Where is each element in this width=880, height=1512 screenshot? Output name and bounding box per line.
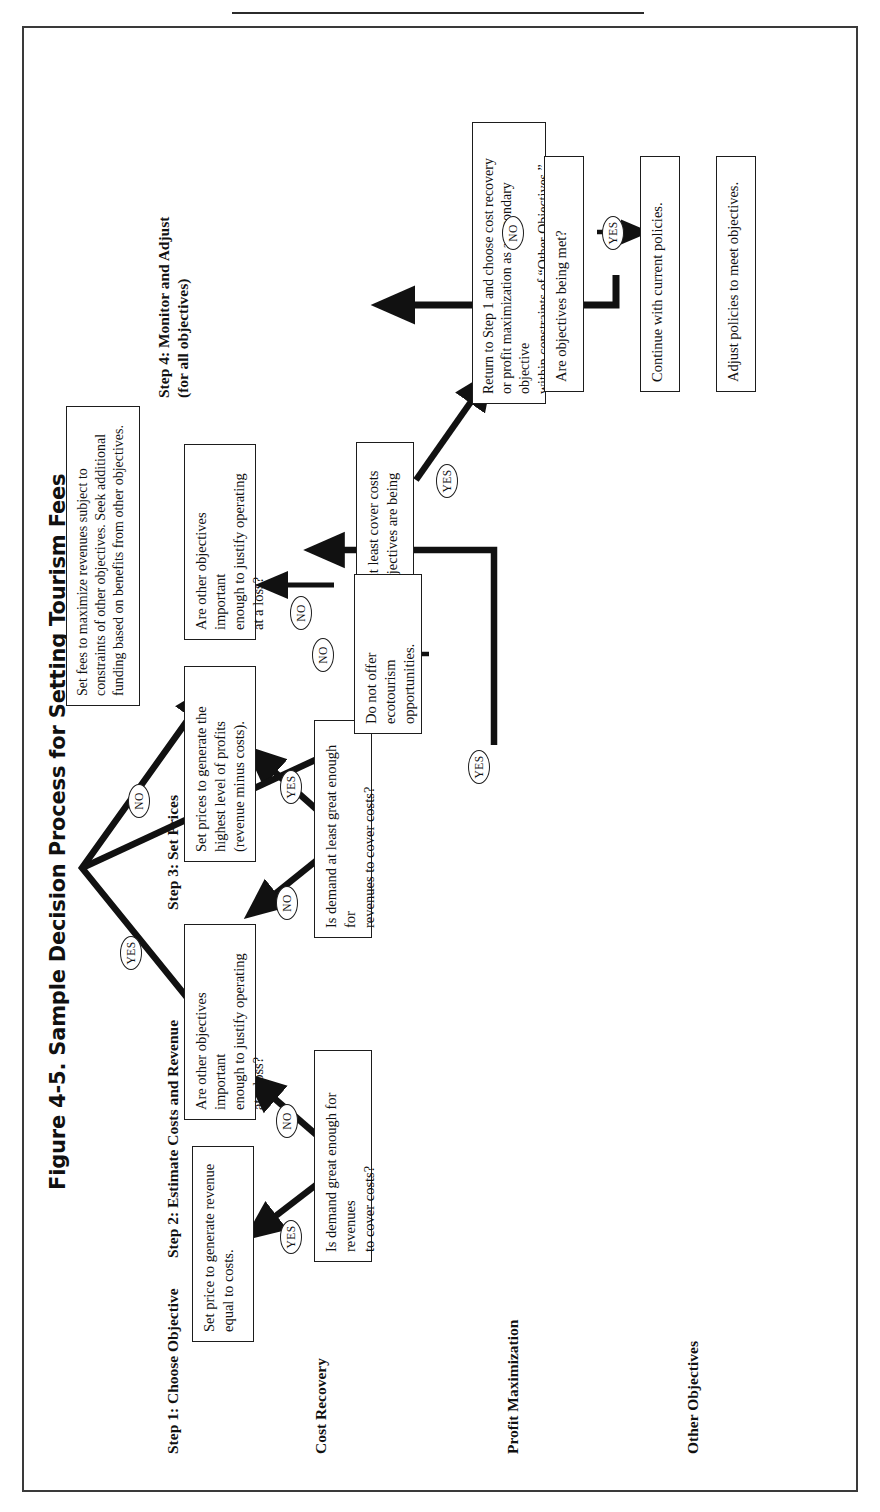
tag-step4-yes: YES [602, 216, 624, 250]
box-continue-current-policies: Continue with current policies. [640, 156, 680, 392]
column-heading-step1: Step 1: Choose Objective [164, 1288, 183, 1454]
box-cost-recovery-demand: Is demand great enough for revenues to c… [314, 1050, 372, 1262]
box-return-to-step1: Return to Step 1 and choose cost recover… [472, 122, 546, 404]
top-rule-divider [232, 12, 644, 14]
column-heading-step4: Step 4: Monitor and Adjust (for all obje… [154, 217, 193, 398]
tag-cost-recovery-no: NO [276, 1104, 298, 1138]
tag-profit-max-objectives-yes: YES [468, 750, 490, 784]
tag-profit-max-yes: YES [280, 770, 302, 804]
box-are-objectives-being-met: Are objectives being met? [544, 156, 584, 392]
column-heading-step3: Step 3: Set Prices [164, 795, 183, 910]
box-adjust-policies: Adjust policies to meet objectives. [716, 156, 756, 392]
figure-page: Figure 4-5. Sample Decision Process for … [0, 0, 880, 1512]
box-cost-recovery-other-objectives: Are other objectives important enough to… [184, 924, 256, 1120]
tag-profit-max-objectives-no: NO [128, 784, 150, 818]
tag-cost-recovery-yes: YES [280, 1220, 302, 1254]
box-profit-max-demand: Is demand at least great enough for reve… [314, 720, 372, 938]
box-set-fees-maximize-revenues: Set fees to maximize revenues subject to… [66, 406, 140, 706]
box-set-prices-highest-profits: Set prices to generate the highest level… [184, 666, 256, 862]
row-heading-other-objectives: Other Objectives [684, 1341, 702, 1454]
tag-profit-max-objectives-no-2: NO [312, 638, 334, 672]
row-heading-profit-maximization: Profit Maximization [504, 1320, 522, 1454]
tag-cost-recovery-objectives-yes: YES [120, 936, 142, 970]
figure-frame: Figure 4-5. Sample Decision Process for … [22, 26, 858, 1492]
tag-other-objectives-yes: YES [436, 464, 458, 498]
box-do-not-offer-ecotourism: Do not offer ecotourism opportunities. [354, 574, 422, 734]
column-heading-step2: Step 2: Estimate Costs and Revenue [164, 1020, 183, 1258]
diagram-canvas: Figure 4-5. Sample Decision Process for … [24, 28, 856, 1490]
row-heading-cost-recovery: Cost Recovery [312, 1358, 330, 1454]
tag-step4-no: NO [502, 216, 524, 250]
tag-other-objectives-no: NO [290, 596, 312, 630]
box-set-price-equal-costs: Set price to generate revenue equal to c… [192, 1146, 254, 1342]
box-profit-max-other-objectives: Are other objectives important enough to… [184, 444, 256, 640]
tag-profit-max-no: NO [276, 886, 298, 920]
